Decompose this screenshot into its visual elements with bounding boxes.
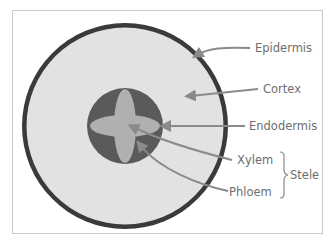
root-cross-section-diagram: Epidermis Cortex Endodermis Xylem Phloem… (0, 0, 333, 245)
label-stele: Stele (290, 168, 319, 182)
label-xylem: Xylem (237, 153, 273, 167)
label-cortex: Cortex (263, 82, 301, 96)
label-phloem: Phloem (229, 185, 272, 199)
label-endodermis: Endodermis (249, 119, 317, 133)
label-epidermis: Epidermis (255, 41, 312, 55)
